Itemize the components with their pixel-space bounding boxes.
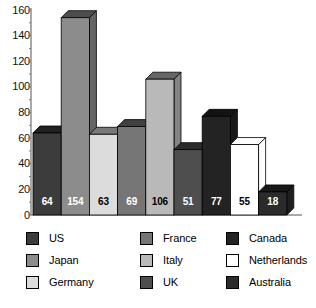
bar-value-france: 69	[118, 197, 146, 207]
legend-column-1: FranceItalyUK	[140, 228, 197, 294]
legend-item-japan[interactable]: Japan	[26, 250, 94, 270]
legend-item-italy[interactable]: Italy	[140, 250, 197, 270]
legend-column-0: USJapanGermany	[26, 228, 94, 294]
legend-column-2: CanadaNetherlandsAustralia	[226, 228, 307, 294]
legend-item-france[interactable]: France	[140, 228, 197, 248]
legend-swatch-icon	[26, 254, 39, 267]
legend-label: Japan	[49, 254, 78, 266]
legend-label: Australia	[249, 276, 291, 288]
legend-item-netherlands[interactable]: Netherlands	[226, 250, 307, 270]
legend-label: Germany	[49, 276, 94, 288]
bar-value-japan: 154	[61, 197, 89, 207]
bar-value-australia: 18	[259, 197, 287, 207]
bar-chart: 160140120100806040200 641546369106517755…	[0, 0, 316, 308]
legend-item-germany[interactable]: Germany	[26, 272, 94, 292]
legend-swatch-icon	[26, 232, 39, 245]
legend-item-australia[interactable]: Australia	[226, 272, 307, 292]
legend-swatch-icon	[226, 232, 239, 245]
plot-area: 160140120100806040200 641546369106517755…	[0, 0, 316, 226]
legend-label: Netherlands	[249, 254, 307, 266]
bar-value-netherlands: 55	[230, 197, 258, 207]
legend-swatch-icon	[226, 276, 239, 289]
bar-value-uk: 51	[174, 197, 202, 207]
legend-label: UK	[163, 276, 178, 288]
legend-swatch-icon	[226, 254, 239, 267]
bar-value-us: 64	[33, 197, 61, 207]
legend: USJapanGermany FranceItalyUK CanadaNethe…	[0, 228, 316, 308]
bars-layer	[0, 0, 316, 226]
legend-label: Canada	[249, 232, 287, 244]
legend-label: Italy	[163, 254, 183, 266]
legend-item-uk[interactable]: UK	[140, 272, 197, 292]
legend-swatch-icon	[140, 276, 153, 289]
legend-swatch-icon	[140, 232, 153, 245]
legend-label: US	[49, 232, 64, 244]
legend-item-canada[interactable]: Canada	[226, 228, 307, 248]
legend-swatch-icon	[140, 254, 153, 267]
bar-value-italy: 106	[146, 197, 174, 207]
legend-swatch-icon	[26, 276, 39, 289]
legend-label: France	[163, 232, 197, 244]
legend-item-us[interactable]: US	[26, 228, 94, 248]
bar-value-germany: 63	[89, 197, 117, 207]
bar-value-canada: 77	[202, 197, 230, 207]
